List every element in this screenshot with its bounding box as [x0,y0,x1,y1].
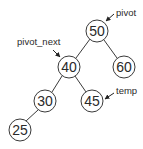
edge-50-40 [76,39,90,58]
svg-text:45: 45 [84,93,100,109]
tree-node-45: 45 [81,90,103,112]
tree-diagram: 50 40 60 30 45 25 pivot pivot_next temp [0,0,143,149]
edge-50-60 [104,40,117,58]
edge-30-25 [26,110,38,121]
tree-node-60: 60 [113,56,135,78]
tree-node-40: 40 [58,56,80,78]
pivot-next-label: pivot_next [17,36,61,47]
svg-text:25: 25 [12,122,28,138]
svg-text:50: 50 [89,23,105,39]
tree-node-30: 30 [34,90,56,112]
tree-node-25: 25 [9,119,31,141]
tree-node-50: 50 [86,20,108,42]
svg-text:40: 40 [61,59,77,75]
pivot-label: pivot [116,7,136,18]
edge-40-45 [75,76,86,92]
temp-arrow-icon [105,93,114,99]
pivot-arrow-icon [106,14,114,21]
pivot-next-arrow-icon [53,50,60,57]
svg-text:60: 60 [116,59,132,75]
svg-text:30: 30 [37,93,53,109]
temp-label: temp [116,85,137,96]
edge-40-30 [52,76,62,92]
